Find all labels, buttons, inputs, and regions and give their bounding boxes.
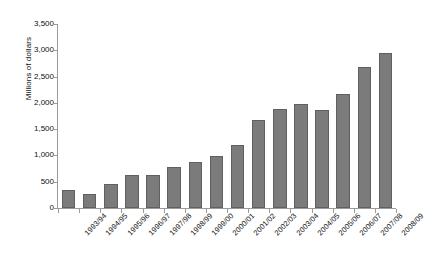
y-tick-label: 500 <box>41 178 54 186</box>
y-tick-mark <box>53 50 57 51</box>
x-tick-label: 2000/01 <box>231 212 256 237</box>
y-tick-mark <box>53 24 57 25</box>
x-tick-label: 2004/05 <box>316 212 341 237</box>
y-tick-label: 1,000 <box>34 151 54 159</box>
x-tick-label: 1994/95 <box>105 212 130 237</box>
bar <box>210 156 224 208</box>
bar <box>358 67 372 208</box>
bar <box>104 184 118 208</box>
y-axis-tick-labels: 05001,0001,5002,0002,5003,0003,500 <box>26 20 54 212</box>
x-tick-label: 2006/07 <box>358 212 383 237</box>
x-tick-label: 1997/98 <box>168 212 193 237</box>
bar <box>252 120 266 208</box>
y-tick-mark <box>53 208 57 209</box>
y-tick-mark <box>53 182 57 183</box>
x-tick-label: 1996/97 <box>147 212 172 237</box>
y-tick-label: 2,500 <box>34 73 54 81</box>
x-tick-label: 2008/09 <box>400 212 425 237</box>
bar <box>273 109 287 208</box>
x-tick-label: 1998/99 <box>189 212 214 237</box>
y-tick-mark <box>53 103 57 104</box>
x-tick-label: 2003/04 <box>295 212 320 237</box>
bar <box>315 110 329 208</box>
bar <box>167 167 181 208</box>
bars-container <box>58 24 396 208</box>
x-tick-label: 1995/96 <box>126 212 151 237</box>
y-tick-label: 3,500 <box>34 20 54 28</box>
bar <box>231 145 245 208</box>
x-tick-label: 2001/02 <box>252 212 277 237</box>
bar <box>146 175 160 208</box>
bar <box>125 175 139 208</box>
x-tick-label: 1993/94 <box>83 212 108 237</box>
y-tick-mark <box>53 77 57 78</box>
x-tick-label: 1999/00 <box>210 212 235 237</box>
bar <box>62 190 76 208</box>
x-tick-label: 2005/06 <box>337 212 362 237</box>
bar <box>83 194 97 208</box>
x-tick-label: 2007/08 <box>379 212 404 237</box>
bar <box>189 162 203 208</box>
y-tick-label: 2,000 <box>34 99 54 107</box>
bar <box>294 104 308 208</box>
y-tick-mark <box>53 155 57 156</box>
y-tick-label: 3,000 <box>34 46 54 54</box>
bar <box>336 94 350 208</box>
y-tick-mark <box>53 129 57 130</box>
x-axis-tick-labels: 1993/941994/951995/961996/971997/981998/… <box>58 212 396 260</box>
x-tick-label: 2002/03 <box>274 212 299 237</box>
y-tick-label: 1,500 <box>34 125 54 133</box>
bar <box>379 53 393 208</box>
